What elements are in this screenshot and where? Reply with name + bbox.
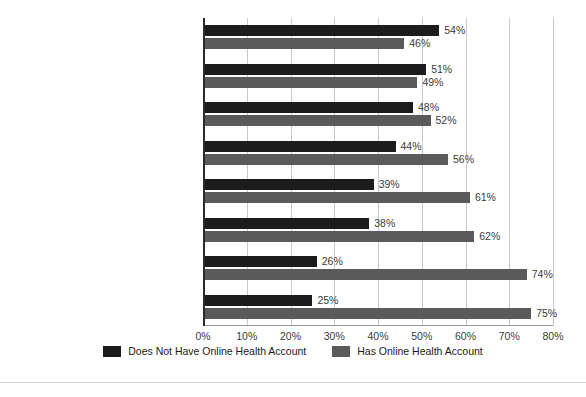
chart-legend: Does Not Have Online Health AccountHas O… <box>0 345 586 357</box>
x-axis-tick-label: 60% <box>455 330 476 342</box>
bar[interactable] <box>203 295 312 306</box>
bar-group: 54%46% <box>203 25 586 49</box>
bar-value-label: 54% <box>444 22 465 38</box>
bar-value-label: 44% <box>401 138 422 154</box>
bar-value-label: 26% <box>322 253 343 269</box>
plot-area: 54%46%51%49%48%52%44%56%39%61%38%62%26%7… <box>203 18 553 326</box>
category-axis-line <box>203 325 553 326</box>
legend-swatch <box>332 346 350 357</box>
bar[interactable] <box>203 38 404 49</box>
bar[interactable] <box>203 256 317 267</box>
legend-item[interactable]: Does Not Have Online Health Account <box>103 345 306 357</box>
bar[interactable] <box>203 231 474 242</box>
legend-label: Has Online Health Account <box>357 345 483 357</box>
bar[interactable] <box>203 141 396 152</box>
bar-value-label: 62% <box>479 228 500 244</box>
bar-chart: 54%46%51%49%48%52%44%56%39%61%38%62%26%7… <box>0 0 586 397</box>
legend-item[interactable]: Has Online Health Account <box>332 345 483 357</box>
bar-value-label: 39% <box>379 176 400 192</box>
bar-value-label: 74% <box>532 266 553 282</box>
bar[interactable] <box>203 102 413 113</box>
bar-value-label: 38% <box>374 215 395 231</box>
x-axis-tick-label: 20% <box>280 330 301 342</box>
bar[interactable] <box>203 218 369 229</box>
legend-swatch <box>103 346 121 357</box>
bar[interactable] <box>203 192 470 203</box>
bar-group: 25%75% <box>203 295 586 319</box>
bar[interactable] <box>203 77 417 88</box>
bar-value-label: 61% <box>475 189 496 205</box>
bar-group: 39%61% <box>203 179 586 203</box>
x-axis-tick-label: 10% <box>236 330 257 342</box>
bar[interactable] <box>203 64 426 75</box>
bar-value-label: 56% <box>453 151 474 167</box>
bar[interactable] <box>203 269 527 280</box>
bar[interactable] <box>203 179 374 190</box>
x-axis-tick-label: 80% <box>542 330 563 342</box>
bar-value-label: 46% <box>409 35 430 51</box>
bar-value-label: 52% <box>436 112 457 128</box>
x-axis-tick-label: 50% <box>411 330 432 342</box>
x-axis-tick-label: 70% <box>499 330 520 342</box>
bar[interactable] <box>203 115 431 126</box>
bar-group: 51%49% <box>203 64 586 88</box>
x-axis-tick-label: 40% <box>367 330 388 342</box>
x-axis-tick-label: 0% <box>195 330 210 342</box>
footer-divider <box>0 382 586 383</box>
bar[interactable] <box>203 25 439 36</box>
bar-group: 48%52% <box>203 102 586 126</box>
x-axis-tick-label: 30% <box>324 330 345 342</box>
bar-group: 38%62% <box>203 218 586 242</box>
value-axis-line <box>203 18 205 326</box>
legend-label: Does Not Have Online Health Account <box>128 345 306 357</box>
bar[interactable] <box>203 308 531 319</box>
bar-group: 44%56% <box>203 141 586 165</box>
bar[interactable] <box>203 154 448 165</box>
bar-value-label: 49% <box>422 74 443 90</box>
bar-value-label: 25% <box>317 292 338 308</box>
bar-value-label: 75% <box>536 305 557 321</box>
bar-group: 26%74% <box>203 256 586 280</box>
